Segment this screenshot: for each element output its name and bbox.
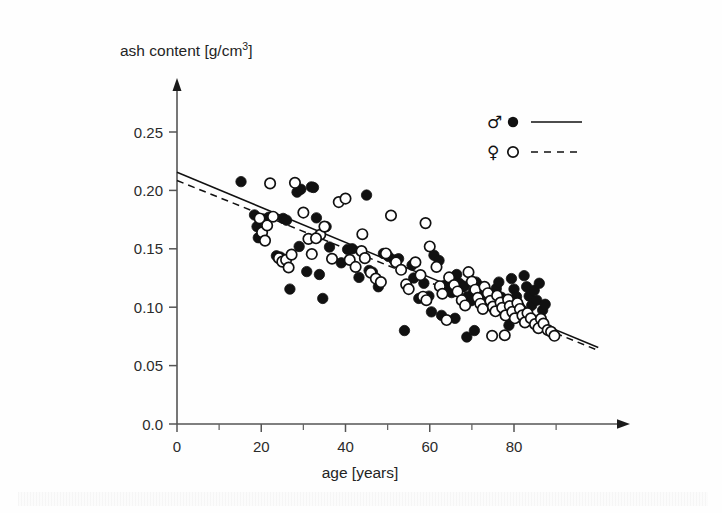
data-point-female: [549, 331, 559, 341]
data-point-female: [357, 229, 367, 239]
legend-symbol-female: ♀: [487, 142, 499, 162]
data-point-female: [376, 277, 386, 287]
data-point-male: [302, 266, 312, 276]
y-tick-label: 0.20: [134, 182, 163, 199]
y-tick-label: 0.15: [134, 240, 163, 257]
data-point-female: [327, 254, 337, 264]
data-point-female: [425, 241, 435, 251]
scatter-plot: 0.00.050.100.150.200.25020406080 ♂♀ ash …: [0, 0, 722, 513]
y-tick-label: 0.25: [134, 124, 163, 141]
data-point-male: [281, 215, 291, 225]
data-point-female: [396, 265, 406, 275]
legend-marker-male: [508, 117, 518, 127]
x-tick-label: 40: [337, 438, 354, 455]
data-point-female: [286, 249, 296, 259]
y-axis-label: ash content [g/cm3]: [120, 40, 253, 59]
x-tick-label: 20: [253, 438, 270, 455]
data-points: [236, 176, 560, 342]
data-point-female: [350, 262, 360, 272]
data-point-female: [311, 233, 321, 243]
data-point-female: [420, 218, 430, 228]
y-tick-label: 0.0: [142, 416, 163, 433]
data-point-female: [265, 178, 275, 188]
data-point-female: [260, 235, 270, 245]
data-point-female: [403, 284, 413, 294]
data-point-female: [268, 211, 278, 221]
legend-symbol-male: ♂: [487, 112, 502, 132]
data-point-male: [324, 242, 334, 252]
data-point-male: [236, 176, 246, 186]
data-point-female: [500, 330, 510, 340]
data-point-male: [399, 325, 409, 335]
data-point-male: [285, 284, 295, 294]
data-point-female: [340, 193, 350, 203]
data-point-female: [360, 253, 370, 263]
data-point-female: [319, 221, 329, 231]
data-point-female: [460, 300, 470, 310]
scan-artifact-strip: [18, 492, 708, 506]
data-point-female: [415, 270, 425, 280]
data-point-male: [311, 213, 321, 223]
data-point-male: [314, 269, 324, 279]
figure-canvas: 0.00.050.100.150.200.25020406080 ♂♀ ash …: [0, 0, 722, 513]
data-point-female: [381, 248, 391, 258]
data-point-male: [361, 190, 371, 200]
data-point-female: [386, 210, 396, 220]
data-point-female: [487, 331, 497, 341]
data-point-female: [298, 207, 308, 217]
data-point-male: [354, 272, 364, 282]
data-point-male: [494, 277, 504, 287]
data-point-male: [469, 325, 479, 335]
axes: [173, 78, 631, 429]
data-point-female: [431, 262, 441, 272]
data-point-female: [283, 262, 293, 272]
data-point-male: [519, 270, 529, 280]
data-point-male: [308, 182, 318, 192]
y-tick-label: 0.10: [134, 299, 163, 316]
data-point-female: [410, 257, 420, 267]
data-point-female: [307, 249, 317, 259]
data-point-female: [437, 289, 447, 299]
data-point-male: [318, 293, 328, 303]
data-point-female: [421, 295, 431, 305]
data-point-female: [290, 178, 300, 188]
legend: ♂♀: [487, 112, 582, 162]
data-point-male: [534, 278, 544, 288]
y-tick-label: 0.05: [134, 357, 163, 374]
data-point-male: [506, 273, 516, 283]
x-axis-label: age [years]: [322, 464, 399, 481]
x-tick-label: 0: [173, 438, 181, 455]
data-point-female: [441, 315, 451, 325]
data-point-male: [540, 299, 550, 309]
x-tick-label: 80: [506, 438, 523, 455]
legend-marker-female: [508, 147, 518, 157]
data-point-male: [426, 307, 436, 317]
x-tick-label: 60: [421, 438, 438, 455]
